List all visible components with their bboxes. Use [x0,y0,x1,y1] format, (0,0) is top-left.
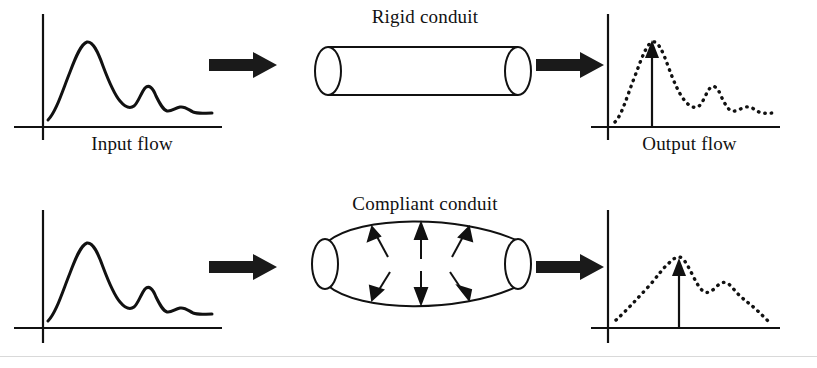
page-edge-rule [0,356,817,357]
output-flow-chart-rigid [585,0,817,145]
arrow-right-icon [205,250,283,284]
panel-output-flow-compliant [585,188,817,348]
conduit-right-cap [505,239,531,289]
output-flow-label: Output flow [607,133,772,155]
arrow-down-head [415,288,427,304]
compliant-conduit: Compliant conduit [300,185,550,335]
flow-arrow-3 [205,250,283,284]
input-flow-chart-rigid [0,0,240,145]
flow-arrow-1 [205,48,283,82]
output-flow-waveform [615,42,775,122]
arrow-right-icon [205,48,283,82]
conduit-left-cap [312,239,338,289]
cylinder-left-cap [315,47,341,95]
figure-canvas: Input flow Rigid conduit Output flo [0,0,817,368]
input-flow-label: Input flow [52,133,212,155]
arrow-up-head [415,223,427,239]
output-flow-chart-compliant [585,188,817,348]
panel-input-flow-rigid: Input flow [0,0,240,145]
arrow-right-glyph [209,254,277,280]
input-flow-chart-compliant [0,188,240,348]
peak-indicator-arrowhead [645,40,659,58]
cylinder-right-cap [505,47,531,95]
rigid-conduit-label: Rigid conduit [300,6,550,28]
expansion-arrows [368,223,472,304]
panel-output-flow-rigid: Output flow [585,0,817,145]
input-flow-waveform [48,243,212,321]
rigid-conduit: Rigid conduit [300,0,550,120]
panel-input-flow-compliant [0,188,240,348]
arrow-down-right-head [458,286,471,300]
input-flow-waveform [48,42,212,120]
output-flow-waveform-damped [616,257,769,322]
compliant-conduit-label: Compliant conduit [300,193,550,215]
arrow-right-glyph [209,52,277,78]
